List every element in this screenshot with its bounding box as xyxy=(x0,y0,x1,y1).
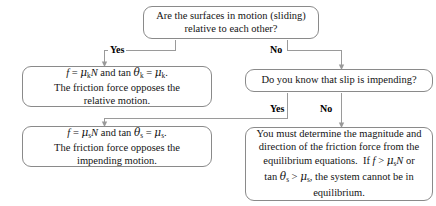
equilibrium-line3: equilibrium equations. If f > μsN or xyxy=(263,154,415,171)
equilibrium-line1: You must determine the magnitude and xyxy=(257,128,422,141)
kinetic-line3: relative motion. xyxy=(84,95,150,108)
result-node-kinetic-friction: f = μkN and tan θk = μk. The friction fo… xyxy=(22,66,212,107)
result-node-equilibrium-equations: You must determine the magnitude and dir… xyxy=(245,127,433,201)
kinetic-line2: The friction force opposes the xyxy=(54,82,180,95)
decision-node-slip-impending: Do you know that slip is impending? xyxy=(245,69,433,92)
equilibrium-line4: tan θs > μs, the system cannot be in xyxy=(264,170,413,187)
edge-no-sliding xyxy=(287,40,342,68)
kinetic-equation: f = μkN and tan θk = μk. xyxy=(66,66,168,83)
equilibrium-line2: direction of the friction force from the xyxy=(259,141,419,154)
edge-label-yes-impending: Yes xyxy=(268,104,286,114)
decision-sliding-line2: relative to each other? xyxy=(185,23,278,36)
result-node-static-friction: f = μsN and tan θs = μs. The friction fo… xyxy=(22,126,212,167)
static-line2: The friction force opposes the xyxy=(54,142,180,155)
decision-node-surfaces-sliding: Are the surfaces in motion (sliding) rel… xyxy=(143,6,319,39)
static-line3: impending motion. xyxy=(77,155,157,168)
equilibrium-line5: equilibrium. xyxy=(313,187,365,200)
edge-label-no-impending: No xyxy=(318,104,334,114)
friction-decision-flowchart: Are the surfaces in motion (sliding) rel… xyxy=(0,0,436,206)
edge-label-yes-sliding: Yes xyxy=(108,45,126,55)
decision-sliding-line1: Are the surfaces in motion (sliding) xyxy=(156,10,306,23)
edge-label-no-sliding: No xyxy=(268,45,284,55)
decision-impending-line1: Do you know that slip is impending? xyxy=(261,74,416,87)
static-equation: f = μsN and tan θs = μs. xyxy=(67,126,166,143)
